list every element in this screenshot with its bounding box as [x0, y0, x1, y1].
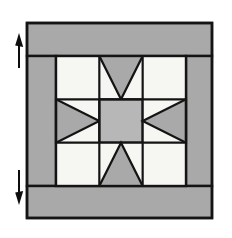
right-border-strip	[186, 56, 212, 186]
bottom-border-strip	[27, 186, 212, 218]
center-square	[99, 99, 142, 142]
star-grid-group	[56, 56, 186, 186]
left-border-strip	[27, 56, 56, 186]
flying-geese-right	[143, 99, 186, 142]
flying-geese-left	[56, 99, 99, 142]
quilt-block-svg	[0, 0, 232, 238]
corner-square-bottom-right	[143, 143, 186, 186]
corner-square-bottom-left	[56, 143, 99, 186]
top-border-strip	[27, 23, 212, 56]
flying-geese-bottom	[99, 143, 142, 186]
quilt-block-diagram	[0, 0, 232, 238]
flying-geese-top	[99, 56, 142, 99]
corner-square-top-right	[143, 56, 186, 99]
corner-square-top-left	[56, 56, 99, 99]
